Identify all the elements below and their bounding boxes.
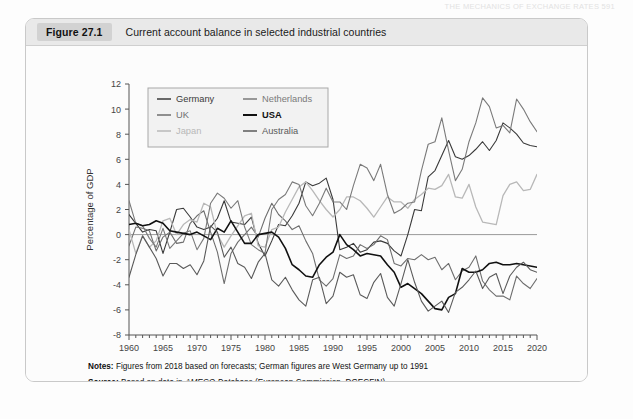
x-tick-label: 1960 [119, 343, 139, 353]
source-label: Source: [88, 378, 119, 382]
plot-wrapper: 121086420-2-4-6-819601965197019751980198… [26, 46, 588, 382]
source-database-name: AMECO Database [185, 378, 253, 382]
running-header: THE MECHANICS OF EXCHANGE RATES 591 [445, 2, 615, 11]
legend-label-uk: UK [176, 110, 190, 120]
x-tick-label: 1980 [255, 343, 275, 353]
legend-label-usa: USA [262, 110, 282, 120]
figure-body: 121086420-2-4-6-819601965197019751980198… [26, 46, 587, 382]
x-tick-label: 1990 [323, 343, 343, 353]
y-tick-label: -6 [113, 305, 121, 315]
x-tick-label: 1995 [357, 343, 377, 353]
line-chart: 121086420-2-4-6-819601965197019751980198… [26, 46, 588, 382]
legend-label-netherlands: Netherlands [262, 94, 312, 104]
source-suffix: (European Commission, DGECFIN) [253, 378, 386, 382]
figure-number-tag: Figure 27.1 [37, 23, 112, 41]
y-tick-label: 2 [116, 205, 121, 215]
legend-label-australia: Australia [262, 126, 299, 136]
y-tick-label: 6 [116, 155, 121, 165]
figure-caption: Current account balance in selected indu… [126, 26, 387, 38]
x-tick-label: 2020 [527, 343, 547, 353]
y-tick-label: -2 [113, 255, 121, 265]
legend-label-japan: Japan [176, 126, 201, 136]
x-tick-label: 2010 [459, 343, 479, 353]
legend-label-germany: Germany [176, 94, 215, 104]
y-tick-label: -8 [113, 330, 121, 340]
source-prefix: Based on data in [119, 378, 185, 382]
x-tick-label: 1975 [221, 343, 241, 353]
y-tick-label: 8 [116, 130, 121, 140]
y-tick-label: 12 [111, 79, 121, 89]
notes-label: Notes: [88, 362, 114, 371]
x-tick-label: 2015 [493, 343, 513, 353]
x-tick-label: 2000 [391, 343, 411, 353]
figure-source: Source: Based on data in AMECO Database … [88, 378, 385, 382]
figure-notes: Notes: Figures from 2018 based on foreca… [88, 362, 428, 371]
x-tick-label: 1965 [153, 343, 173, 353]
series-line-australia [129, 226, 537, 313]
y-tick-label: 0 [116, 230, 121, 240]
figure-header-bar: Figure 27.1 Current account balance in s… [26, 19, 587, 46]
y-tick-label: 10 [111, 105, 121, 115]
y-tick-label: 4 [116, 180, 121, 190]
series-line-japan [129, 174, 537, 253]
y-axis-title: Percentage of GDP [84, 168, 95, 250]
chart-legend: GermanyNetherlandsUKUSAJapanAustralia [148, 88, 328, 147]
x-tick-label: 1985 [289, 343, 309, 353]
x-tick-label: 1970 [187, 343, 207, 353]
y-tick-label: -4 [113, 280, 121, 290]
figure-container: Figure 27.1 Current account balance in s… [25, 18, 588, 382]
x-tick-label: 2005 [425, 343, 445, 353]
notes-text: Figures from 2018 based on forecasts; Ge… [114, 362, 429, 371]
